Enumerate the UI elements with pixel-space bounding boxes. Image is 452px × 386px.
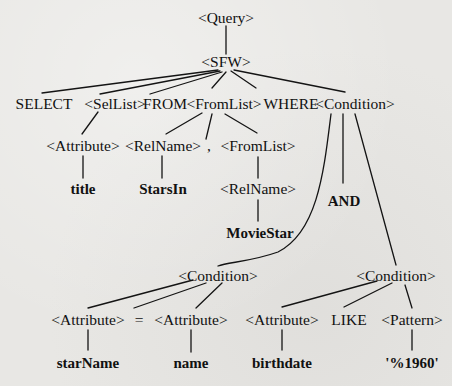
leaf-birthdate: birthdate	[252, 356, 312, 371]
node-from-keyword: FROM	[143, 96, 187, 112]
node-sfw: <SFW>	[201, 54, 250, 70]
leaf-name: name	[174, 356, 209, 371]
node-condition-left: <Condition>	[178, 268, 258, 284]
leaf-pattern: '%1960'	[385, 356, 438, 371]
node-attribute-title: <Attribute>	[46, 138, 119, 154]
node-attribute-name: <Attribute>	[154, 312, 227, 328]
edge	[88, 280, 193, 308]
edge	[196, 283, 222, 308]
node-pattern: <Pattern>	[381, 312, 442, 328]
node-comma: ,	[207, 138, 211, 154]
node-relname-starsin: <RelName>	[125, 138, 201, 154]
node-sellist: <SelList>	[84, 96, 145, 112]
edge	[82, 112, 98, 134]
node-attribute-starname: <Attribute>	[51, 312, 124, 328]
leaf-title: title	[71, 182, 96, 197]
node-and-keyword: AND	[328, 194, 361, 209]
leaf-starsin: StarsIn	[139, 182, 187, 197]
node-attribute-birthdate: <Attribute>	[245, 312, 318, 328]
edge	[355, 114, 396, 265]
node-condition-top: <Condition>	[315, 96, 395, 112]
node-equals: =	[135, 312, 144, 328]
node-relname-moviestar: <RelName>	[220, 181, 296, 197]
node-fromlist: <FromList>	[186, 96, 261, 112]
node-condition-right: <Condition>	[356, 268, 436, 284]
node-like-keyword: LIKE	[331, 312, 366, 328]
edge	[405, 285, 412, 308]
edge	[206, 114, 212, 139]
leaf-starname: starName	[57, 356, 119, 371]
node-select-keyword: SELECT	[16, 96, 73, 112]
edge	[225, 114, 257, 133]
edge	[234, 70, 345, 92]
leaf-moviestar: MovieStar	[226, 226, 293, 241]
edge	[166, 113, 202, 134]
edge	[282, 281, 377, 307]
node-query: <Query>	[198, 10, 254, 26]
node-where-keyword: WHERE	[263, 96, 318, 112]
node-fromlist-inner: <FromList>	[220, 138, 295, 154]
edge	[344, 283, 392, 307]
